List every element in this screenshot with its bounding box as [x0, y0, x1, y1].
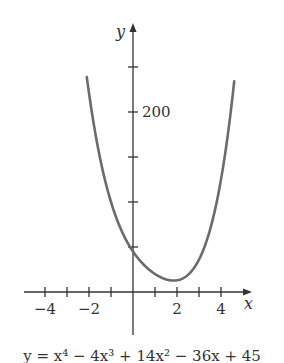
- x-tick-label: −4: [34, 300, 56, 318]
- y-axis-label: y: [115, 22, 126, 41]
- y-tick-labels: 200: [142, 103, 171, 121]
- y-axis-arrow-icon: [130, 23, 137, 32]
- function-plot: −4−224 200 y x: [0, 0, 284, 345]
- x-axis-label: x: [244, 294, 253, 313]
- x-tick-label: −2: [78, 300, 100, 318]
- x-tick-label: 2: [172, 300, 182, 318]
- axes: [24, 23, 252, 335]
- y-tick-label: 200: [142, 103, 171, 121]
- x-tick-labels: −4−224: [34, 300, 226, 318]
- function-caption: y = x⁴ − 4x³ + 14x² − 36x + 45: [0, 349, 284, 363]
- x-tick-label: 4: [216, 300, 226, 318]
